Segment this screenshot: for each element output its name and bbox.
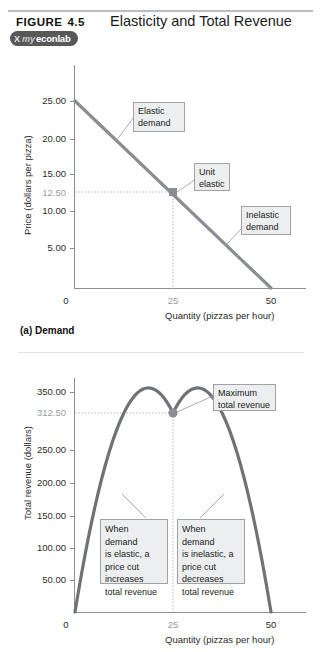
callout-inelastic-line-1: When demand <box>182 523 240 548</box>
panel-divider <box>18 352 304 353</box>
figure-title: Elasticity and Total Revenue <box>110 13 292 29</box>
myeconlab-pill: X my econlab <box>10 31 78 46</box>
unit-elastic-marker <box>169 188 177 196</box>
callout-inelastic-line-4: decreases <box>182 573 240 586</box>
panel-demand: Price (dollars per pizza) 25.00 20.00 15… <box>0 55 321 320</box>
callout-maximum-line2: total revenue <box>218 400 271 412</box>
myeconlab-badge[interactable]: X my econlab <box>10 31 78 46</box>
demand-plot-svg <box>0 55 321 320</box>
figure-number: 4.5 <box>67 16 85 28</box>
header-divider <box>8 10 313 12</box>
panel-a-caption: (a) Demand <box>20 325 74 336</box>
callout-inelastic-line-2: is inelastic, a <box>182 548 240 561</box>
callout-inelastic-demand-line2: demand <box>246 222 286 234</box>
panel-total-revenue: Total revenue (dollars) 350.00 312.50 25… <box>0 360 321 652</box>
elastic-box-leader-line <box>122 494 146 518</box>
inelastic-box-leader-line <box>200 494 224 518</box>
callout-inelastic-line-3: price cut <box>182 561 240 574</box>
callout-elastic-line-3: price cut <box>105 561 163 574</box>
callout-maximum-total-revenue: Maximum total revenue <box>213 384 276 411</box>
callout-elastic-price-cut: When demand is elastic, a price cut incr… <box>100 519 168 584</box>
callout-inelastic-line-5: total revenue <box>182 586 240 599</box>
figure-root: FIGURE4.5 Elasticity and Total Revenue X… <box>0 0 321 652</box>
callout-inelastic-price-cut: When demand is inelastic, a price cut de… <box>177 519 245 584</box>
figure-label: FIGURE4.5 <box>16 16 85 28</box>
callout-elastic-demand-line2: demand <box>138 118 180 130</box>
myeconlab-x-icon: X <box>14 34 20 44</box>
callout-elastic-demand-line1: Elastic <box>138 106 180 118</box>
myeconlab-my-text: my <box>22 34 35 44</box>
figure-label-text: FIGURE <box>16 16 62 28</box>
callout-unit-elastic: Unit elastic <box>194 163 230 191</box>
callout-inelastic-demand: Inelastic demand <box>241 206 291 235</box>
elastic-leader-line <box>116 117 134 141</box>
callout-inelastic-demand-line1: Inelastic <box>246 210 286 222</box>
callout-elastic-line-1: When demand <box>105 523 163 548</box>
callout-elastic-line-4: increases <box>105 573 163 586</box>
callout-elastic-line-2: is elastic, a <box>105 548 163 561</box>
myeconlab-econlab-text: econlab <box>36 33 71 44</box>
callout-unit-elastic-line2: elastic <box>199 179 225 191</box>
callout-unit-elastic-line1: Unit <box>199 167 225 179</box>
callout-elastic-line-5: total revenue <box>105 586 163 599</box>
maximum-revenue-marker <box>168 408 177 417</box>
callout-maximum-line1: Maximum <box>218 388 271 400</box>
callout-elastic-demand: Elastic demand <box>133 102 185 132</box>
